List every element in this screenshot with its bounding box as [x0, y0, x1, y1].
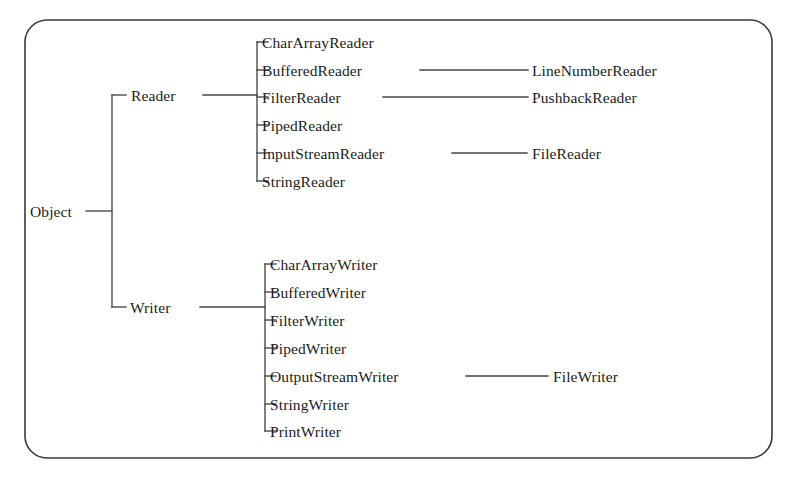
- writer-branch-connector: [200, 264, 276, 431]
- node-writer: Writer: [130, 300, 170, 316]
- node-printwriter: PrintWriter: [270, 424, 341, 440]
- node-bufferedwriter: BufferedWriter: [270, 285, 366, 301]
- node-stringreader: StringReader: [262, 174, 345, 190]
- node-chararrayreader: CharArrayReader: [262, 35, 374, 51]
- node-filterwriter: FilterWriter: [270, 313, 345, 329]
- node-filereader: FileReader: [532, 146, 601, 162]
- node-inputstreamreader: InputStreamReader: [262, 146, 384, 162]
- node-filterreader: FilterReader: [262, 90, 341, 106]
- node-reader: Reader: [131, 88, 176, 104]
- node-pipedreader: PipedReader: [262, 118, 342, 134]
- node-stringwriter: StringWriter: [270, 397, 349, 413]
- node-bufferedreader: BufferedReader: [262, 63, 362, 79]
- reader-extension-connectors: [383, 70, 528, 153]
- root-connector: [86, 95, 126, 307]
- node-object: Object: [30, 204, 72, 220]
- node-outputstreamwriter: OutputStreamWriter: [270, 369, 399, 385]
- class-hierarchy-svg: [0, 0, 796, 480]
- reader-branch-connector: [203, 42, 268, 181]
- node-chararraywriter: CharArrayWriter: [270, 257, 378, 273]
- node-pipedwriter: PipedWriter: [270, 341, 346, 357]
- diagram-canvas: Object Reader Writer CharArrayReader Buf…: [0, 0, 796, 480]
- node-pushbackreader: PushbackReader: [532, 90, 637, 106]
- node-linenumberreader: LineNumberReader: [532, 63, 657, 79]
- diagram-frame: [25, 20, 772, 458]
- node-filewriter: FileWriter: [553, 369, 618, 385]
